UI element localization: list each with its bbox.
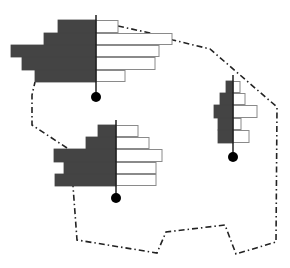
pyramid-southwest-left-bar-3 — [64, 162, 116, 174]
pyramid-east-left-bar-0 — [226, 81, 233, 93]
pyramid-east-right-bar-3 — [233, 119, 241, 130]
pyramid-northwest-location-dot — [91, 92, 101, 102]
pyramid-east-left-bar-3 — [218, 118, 233, 130]
pyramid-east-right-bar-0 — [233, 82, 240, 93]
pyramid-northwest-right-bar-4 — [96, 71, 125, 82]
pyramid-east-left-bar-2 — [214, 105, 233, 118]
pyramid-southwest-right-bar-3 — [116, 163, 156, 174]
pyramid-east-left-bar-1 — [220, 93, 233, 105]
pyramid-northwest-right-bar-0 — [96, 21, 118, 33]
pyramid-southwest-left-bar-4 — [55, 174, 116, 186]
pyramid-southwest-left-bar-1 — [86, 137, 116, 149]
pyramid-southwest-left-bar-0 — [98, 125, 116, 137]
pyramid-northwest-right-bar-1 — [96, 34, 172, 45]
pyramid-east-location-dot — [228, 152, 238, 162]
region-boundary-west — [32, 82, 67, 148]
pyramid-map-diagram — [0, 0, 290, 268]
pyramid-northwest-left-bar-4 — [35, 70, 96, 82]
pyramid-east-right-bar-2 — [233, 106, 257, 118]
pyramid-northwest-right-bar-3 — [96, 58, 155, 70]
pyramid-southwest-right-bar-4 — [116, 175, 156, 186]
pyramid-southwest-right-bar-2 — [116, 150, 162, 162]
pyramid-northwest-left-bar-1 — [44, 33, 96, 45]
pyramid-east-right-bar-1 — [233, 94, 245, 105]
pyramid-southwest-location-dot — [111, 193, 121, 203]
pyramid-southwest-right-bar-1 — [116, 138, 149, 149]
pyramid-east-right-bar-4 — [233, 131, 249, 143]
pyramid-northwest-right-bar-2 — [96, 46, 159, 57]
pyramid-northwest-left-bar-2 — [11, 45, 96, 57]
pyramid-southwest-left-bar-2 — [54, 149, 116, 162]
pyramid-southwest-right-bar-0 — [116, 126, 138, 137]
pyramid-northwest-left-bar-0 — [58, 20, 96, 33]
pyramid-northwest-left-bar-3 — [22, 57, 96, 70]
pyramid-east-left-bar-4 — [218, 130, 233, 143]
diagram-canvas — [0, 0, 290, 268]
